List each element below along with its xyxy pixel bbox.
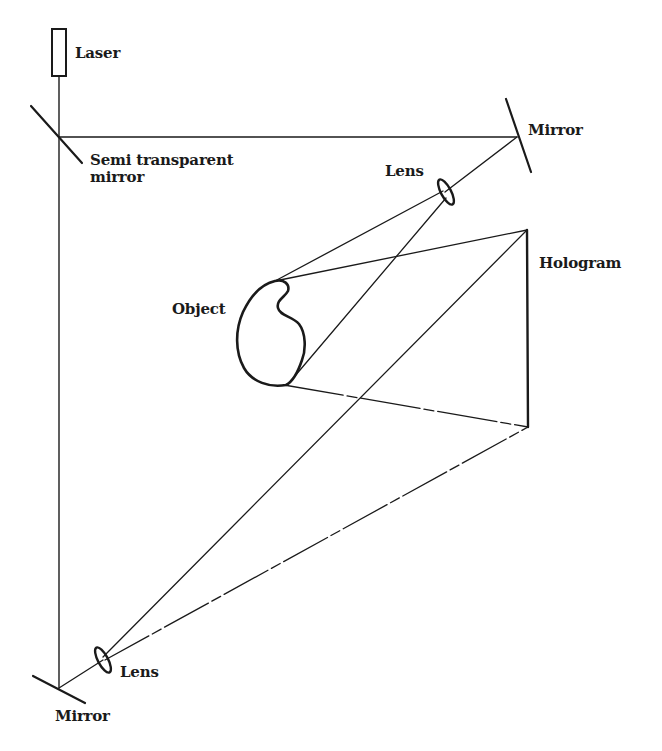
label-semi-transparent-mirror-line1: Semi transparent <box>90 152 233 169</box>
label-semi-transparent-mirror-line2: mirror <box>90 169 144 186</box>
label-laser: Laser <box>75 45 120 62</box>
beam-bottom-mirror-to-lens <box>59 660 103 688</box>
beam-object-top-to-hologram <box>275 230 527 281</box>
beam-top-mirror-to-lens <box>445 137 517 192</box>
hologram-plate <box>527 230 528 427</box>
reference-beam-to-hologram-bottom <box>105 427 528 660</box>
label-mirror-top: Mirror <box>528 122 583 139</box>
beam-lens-to-object-bottom <box>289 198 446 383</box>
object-shape <box>237 281 305 386</box>
reference-beam-to-hologram-top <box>103 230 527 657</box>
beam-object-bottom-to-hologram <box>284 385 528 427</box>
label-lens-top: Lens <box>385 163 424 180</box>
semi-transparent-mirror <box>31 106 82 163</box>
hologram-diagram <box>0 0 662 751</box>
label-hologram: Hologram <box>539 255 621 272</box>
label-object: Object <box>172 301 225 318</box>
beam-lens-to-object-top <box>275 191 443 281</box>
label-mirror-bottom: Mirror <box>55 708 110 725</box>
laser-box <box>52 29 66 76</box>
label-lens-bottom: Lens <box>120 664 159 681</box>
